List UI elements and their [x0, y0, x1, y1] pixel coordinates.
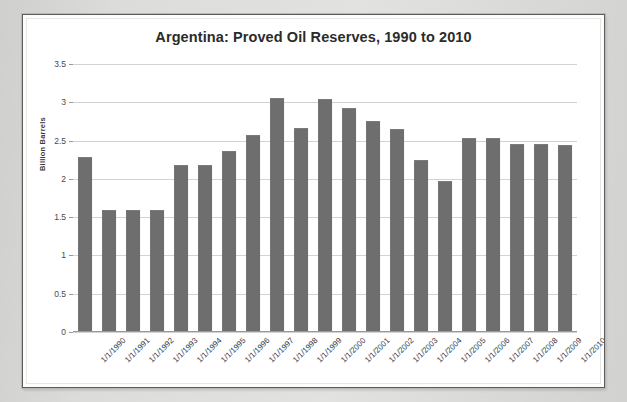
bar[interactable] — [414, 160, 428, 332]
bar-slot — [337, 64, 361, 332]
bar[interactable] — [198, 165, 212, 332]
x-axis-tick-label: 1/1/1993 — [171, 336, 199, 364]
bar-slot — [553, 64, 577, 332]
x-axis-tick-label: 1/1/2007 — [507, 336, 535, 364]
x-axis-tick-label: 1/1/2000 — [339, 336, 367, 364]
x-axis-tick-label: 1/1/2006 — [483, 336, 511, 364]
x-axis-tick-label: 1/1/1990 — [99, 336, 127, 364]
bar[interactable] — [78, 157, 92, 332]
bar-slot — [505, 64, 529, 332]
x-axis-tick-label: 1/1/2003 — [411, 336, 439, 364]
x-axis-tick-label: 1/1/2002 — [387, 336, 415, 364]
chart-frame: Argentina: Proved Oil Reserves, 1990 to … — [22, 14, 605, 388]
x-axis-tick-label: 1/1/2005 — [459, 336, 487, 364]
bar-slot — [529, 64, 553, 332]
bar-slot — [433, 64, 457, 332]
bar[interactable] — [246, 135, 260, 332]
chart-title: Argentina: Proved Oil Reserves, 1990 to … — [27, 29, 600, 45]
x-axis-tick-label: 1/1/1995 — [219, 336, 247, 364]
bar-slot — [97, 64, 121, 332]
bar[interactable] — [126, 210, 140, 333]
bar[interactable] — [438, 181, 452, 332]
bar-slot — [265, 64, 289, 332]
bar[interactable] — [366, 121, 380, 332]
x-axis-tick-label: 1/1/2008 — [531, 336, 559, 364]
bar-slot — [385, 64, 409, 332]
bar[interactable] — [294, 128, 308, 332]
bar-slot — [121, 64, 145, 332]
bar-slot — [313, 64, 337, 332]
x-axis-tick-label: 1/1/2009 — [555, 336, 583, 364]
bar-slot — [241, 64, 265, 332]
bar[interactable] — [390, 129, 404, 332]
bar[interactable] — [486, 138, 500, 332]
y-axis-tick-label: 2.5 — [54, 136, 66, 146]
bar[interactable] — [342, 108, 356, 332]
y-axis-tick-label: 3 — [61, 97, 66, 107]
y-axis-tick-label: 0 — [61, 327, 66, 337]
bar[interactable] — [510, 144, 524, 332]
bar[interactable] — [462, 138, 476, 332]
x-axis-tick-label: 1/1/1991 — [123, 336, 151, 364]
bar-slot — [409, 64, 433, 332]
bar-series — [73, 64, 577, 332]
bar-slot — [457, 64, 481, 332]
y-axis-title: Billion Barrels — [38, 117, 47, 171]
bar-slot — [481, 64, 505, 332]
bar-slot — [73, 64, 97, 332]
x-axis-tick-label: 1/1/1992 — [147, 336, 175, 364]
bar[interactable] — [102, 210, 116, 333]
x-axis-labels: 1/1/19901/1/19911/1/19921/1/19931/1/1994… — [73, 332, 577, 384]
x-axis-tick-label: 1/1/1999 — [315, 336, 343, 364]
y-axis-tick-label: 1.5 — [54, 212, 66, 222]
bar-slot — [169, 64, 193, 332]
x-axis-tick-label: 1/1/2001 — [363, 336, 391, 364]
x-axis-tick-label: 1/1/1997 — [267, 336, 295, 364]
y-axis-tick-label: 3.5 — [54, 59, 66, 69]
bar-slot — [217, 64, 241, 332]
bar-slot — [145, 64, 169, 332]
plot-area: 00.511.522.533.5 — [73, 64, 577, 332]
bar[interactable] — [174, 165, 188, 332]
y-axis-tick-label: 1 — [61, 250, 66, 260]
bar[interactable] — [150, 210, 164, 332]
bar[interactable] — [222, 151, 236, 332]
bar-slot — [289, 64, 313, 332]
bar[interactable] — [318, 99, 332, 332]
y-axis-tick-label: 2 — [61, 174, 66, 184]
x-axis-tick-label: 1/1/2004 — [435, 336, 463, 364]
x-axis-tick-label: 1/1/1994 — [195, 336, 223, 364]
y-axis-tick-label: 0.5 — [54, 289, 66, 299]
x-axis-tick-label: 1/1/1998 — [291, 336, 319, 364]
chart-plot-container: Argentina: Proved Oil Reserves, 1990 to … — [26, 18, 601, 384]
x-axis-tick-label: 1/1/1996 — [243, 336, 271, 364]
x-axis-tick-label: 1/1/2010 — [579, 336, 605, 364]
bar-slot — [361, 64, 385, 332]
bar[interactable] — [270, 98, 284, 332]
bar[interactable] — [534, 144, 548, 332]
bar[interactable] — [558, 145, 572, 332]
bar-slot — [193, 64, 217, 332]
